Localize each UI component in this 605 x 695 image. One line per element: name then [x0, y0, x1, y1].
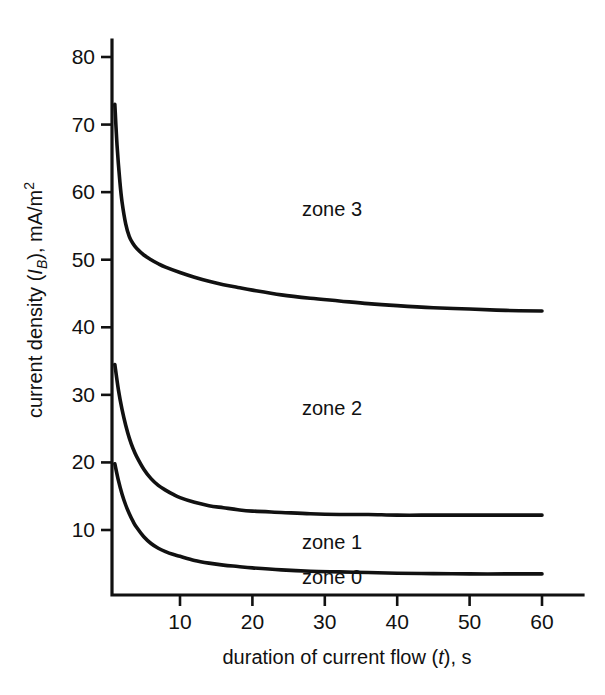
y-tick-label: 50 — [72, 248, 95, 271]
x-tick-label: 50 — [458, 610, 481, 633]
x-tick-label: 10 — [168, 610, 191, 633]
x-axis-ticks: 102030405060 — [168, 595, 553, 633]
zone-annotations: zone 3zone 2zone 1zone 0 — [302, 198, 362, 588]
axis-spines — [112, 40, 583, 595]
data-series-group — [115, 104, 542, 574]
x-tick-label: 20 — [241, 610, 264, 633]
y-tick-label: 80 — [72, 45, 95, 68]
zone-label: zone 0 — [302, 566, 362, 588]
x-tick-label: 30 — [313, 610, 336, 633]
chart-figure: 1020304050607080 102030405060 zone 3zone… — [0, 0, 605, 695]
y-tick-label: 10 — [72, 518, 95, 541]
y-tick-label: 60 — [72, 180, 95, 203]
zone-label: zone 1 — [302, 531, 362, 553]
x-tick-label: 60 — [530, 610, 553, 633]
y-tick-label: 40 — [72, 315, 95, 338]
y-tick-label: 20 — [72, 450, 95, 473]
chart-canvas: 1020304050607080 102030405060 zone 3zone… — [0, 0, 605, 695]
y-tick-label: 70 — [72, 113, 95, 136]
zone-label: zone 3 — [302, 198, 362, 220]
y-tick-label: 30 — [72, 383, 95, 406]
zone-label: zone 2 — [302, 397, 362, 419]
data-curve — [115, 364, 542, 515]
x-axis-title: duration of current flow (t), s — [223, 646, 472, 668]
y-axis-ticks: 1020304050607080 — [72, 45, 112, 541]
y-axis-title: current density (IB), mA/m2 — [21, 182, 50, 418]
data-curve — [115, 464, 542, 574]
x-tick-label: 40 — [386, 610, 409, 633]
